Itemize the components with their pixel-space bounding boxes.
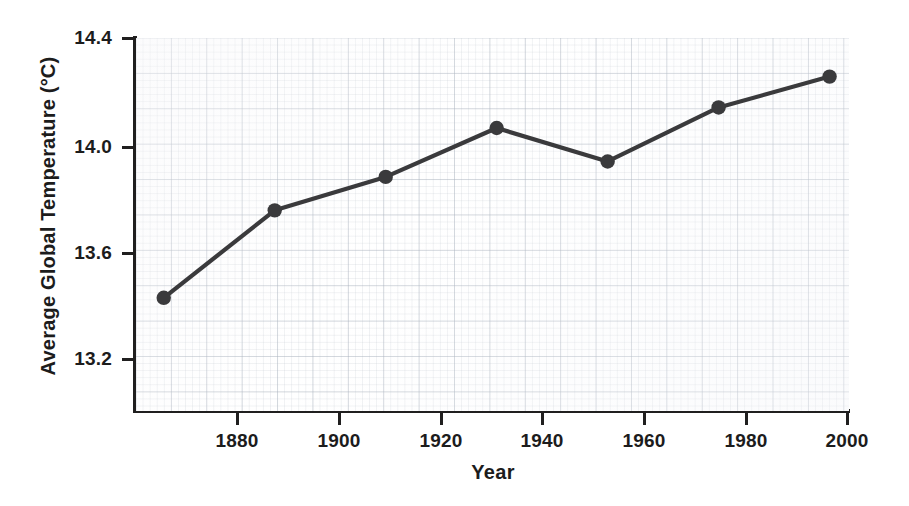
x-tick-mark [745,412,748,425]
y-tick-mark [122,252,134,255]
x-tick-label: 1880 [197,430,277,452]
x-tick-label: 1900 [299,430,379,452]
x-tick-label: 1920 [401,430,481,452]
x-tick-label: 1980 [706,430,786,452]
y-tick-label: 14.0 [52,136,112,158]
y-tick-label: 14.4 [52,27,112,49]
data-point [600,154,614,168]
data-point [378,170,392,184]
data-point [489,121,503,135]
y-tick-mark [122,358,134,361]
y-tick-mark [122,37,134,40]
temperature-line [164,77,830,298]
plot-area [136,38,849,411]
x-tick-mark [440,412,443,425]
y-tick-label: 13.2 [52,348,112,370]
x-tick-label: 1960 [604,430,684,452]
x-tick-mark [236,412,239,425]
data-point [157,291,171,305]
x-tick-label: 2000 [807,430,887,452]
x-tick-mark [338,412,341,425]
y-tick-mark [122,146,134,149]
x-tick-label: 1940 [502,430,582,452]
data-series-layer [136,38,849,411]
y-tick-label: 13.6 [52,242,112,264]
x-tick-mark [541,412,544,425]
data-point [268,203,282,217]
x-tick-mark [846,412,849,425]
data-point [711,100,725,114]
x-tick-mark [643,412,646,425]
chart-figure: Average Global Temperature (°C) 14.4 14.… [0,0,909,506]
data-point [822,69,836,83]
x-axis-title: Year [137,461,849,484]
